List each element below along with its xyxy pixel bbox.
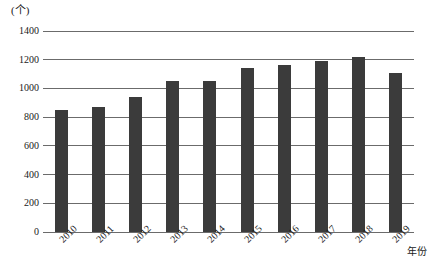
y-axis-unit-label: (个) [11,4,29,16]
bar [166,81,179,232]
bar [352,57,365,232]
bar [389,73,402,232]
bar [55,110,68,232]
y-axis-tick-label: 1200 [5,55,39,65]
y-axis: 0200400600800100012001400 [0,31,39,232]
bar [278,65,291,232]
bar [92,107,105,232]
y-axis-tick-label: 600 [5,141,39,151]
plot-area [43,31,414,232]
bar [203,81,216,232]
x-axis-title: 年份 [407,246,427,257]
y-axis-tick-label: 400 [5,170,39,180]
bar-chart: (个) 0200400600800100012001400 2010201120… [0,0,437,278]
gridline [43,31,414,32]
bar [315,61,328,232]
bar [241,68,254,232]
y-axis-tick-label: 200 [5,198,39,208]
y-axis-tick-label: 800 [5,112,39,122]
y-axis-tick-label: 1000 [5,83,39,93]
x-axis: 2010201120122013201420152016201720182019 [43,233,414,278]
y-axis-tick-label: 1400 [5,26,39,36]
bar [129,97,142,232]
y-axis-tick-label: 0 [5,227,39,237]
